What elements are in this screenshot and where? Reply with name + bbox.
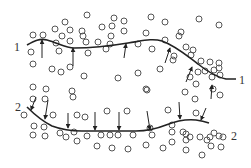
interface-2-curve <box>27 107 209 131</box>
particle-circle <box>98 132 104 138</box>
particle-circle <box>111 15 117 21</box>
particle-circle <box>183 137 189 143</box>
particle-circle <box>165 107 171 113</box>
particle-circle <box>109 145 115 151</box>
particle-circle <box>104 108 110 114</box>
particle-circle <box>83 39 89 45</box>
arrow-up-icon <box>165 48 170 63</box>
particle-circle <box>42 133 48 139</box>
particle-circle <box>143 30 149 36</box>
particle-circle <box>31 123 37 129</box>
particle-circle <box>157 66 163 72</box>
particle-circle <box>124 108 130 114</box>
particle-circle <box>135 70 141 76</box>
particle-circle <box>84 12 90 18</box>
particle-circle <box>63 134 69 140</box>
particle-circle <box>57 130 63 136</box>
particle-circle <box>171 53 177 59</box>
particle-circle <box>169 139 175 145</box>
particle-circle <box>149 46 155 52</box>
particle-circle <box>148 14 154 20</box>
arrow-down-icon <box>179 102 180 119</box>
particle-circle <box>28 49 34 55</box>
particle-circle <box>115 132 121 138</box>
arrow-down-icon <box>45 100 48 119</box>
particle-circle <box>67 38 73 44</box>
particle-circle <box>216 22 222 28</box>
particle-circle <box>197 134 203 140</box>
particle-circle <box>69 88 75 94</box>
particle-circle <box>160 145 166 151</box>
particle-circle <box>193 81 199 87</box>
particle-circle <box>207 59 213 65</box>
particle-circle <box>56 48 62 54</box>
particle-circle <box>107 132 113 138</box>
particle-circle <box>208 143 214 149</box>
particle-circle <box>42 96 48 102</box>
upward-arrows <box>42 40 212 99</box>
particle-circle <box>170 57 176 63</box>
particle-circle <box>82 114 88 120</box>
particle-circle <box>85 50 91 56</box>
particle-circle <box>99 24 105 30</box>
arrow-down-icon <box>31 97 36 110</box>
particle-circle <box>74 112 80 118</box>
particle-circle <box>109 23 115 29</box>
particle-circle <box>21 112 27 118</box>
particle-circle <box>210 86 216 92</box>
particle-circle <box>217 92 223 98</box>
curve-1-label-right: 1 <box>239 73 245 87</box>
particle-circle <box>121 28 127 34</box>
particle-circle <box>43 86 49 92</box>
particle-circle <box>74 138 80 144</box>
particle-circle <box>94 143 100 149</box>
curve-1-label-left: 1 <box>14 40 20 54</box>
particle-circle <box>70 94 76 100</box>
particle-circle <box>149 132 155 138</box>
particle-circle <box>143 142 149 148</box>
arrow-up-icon <box>124 44 126 58</box>
particle-circle <box>192 96 198 102</box>
curve-2-label-right: 2 <box>231 129 237 143</box>
particle-circle <box>220 134 226 140</box>
particle-circle <box>216 133 222 139</box>
particle-circle <box>81 73 87 79</box>
interface-particle-diagram: 1 1 2 2 <box>0 0 251 168</box>
particle-circle <box>30 84 36 90</box>
particle-circle <box>169 129 175 135</box>
particle-circle <box>130 132 136 138</box>
particle-circle <box>108 33 114 39</box>
particle-circle <box>196 16 202 22</box>
particle-circle <box>125 146 131 152</box>
arrow-down-icon <box>201 108 206 120</box>
particle-circle <box>198 58 204 64</box>
particle-circle <box>183 44 189 50</box>
particle-circle <box>121 18 127 24</box>
particle-circle <box>193 110 199 116</box>
curve-2-label-left: 2 <box>15 100 21 114</box>
particle-circle <box>30 132 36 138</box>
particle-circle <box>30 32 36 38</box>
particle-circle <box>67 64 73 70</box>
particle-circle <box>50 112 56 118</box>
particle-circle <box>162 19 168 25</box>
particle-circle <box>58 69 64 75</box>
particle-circle <box>218 144 224 150</box>
particle-circle <box>183 147 189 153</box>
particle-circle <box>52 26 58 32</box>
interface-curves <box>27 39 236 131</box>
particle-circle <box>195 69 201 75</box>
particle-circle <box>49 66 55 72</box>
particle-circle <box>199 152 205 158</box>
downward-arrows <box>31 97 206 130</box>
particle-circle <box>41 124 47 130</box>
particle-circle <box>30 61 36 67</box>
particle-circle <box>95 39 101 45</box>
particles <box>21 12 226 158</box>
particle-circle <box>182 89 188 95</box>
particle-circle <box>67 27 73 33</box>
particle-circle <box>115 75 121 81</box>
particle-circle <box>40 32 46 38</box>
particle-circle <box>62 19 68 25</box>
particle-circle <box>59 33 65 39</box>
